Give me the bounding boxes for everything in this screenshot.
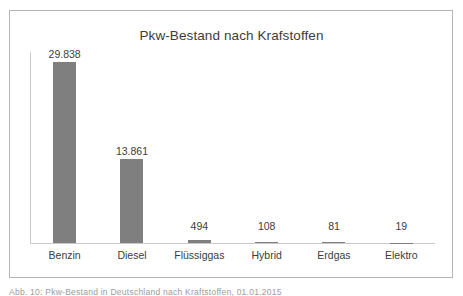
figure-caption-clip: Abb. 10: Pkw-Bestand in Deutschland nach… <box>9 287 453 296</box>
bar-erdgas <box>322 242 345 243</box>
bar-item: 29.838 <box>31 52 98 243</box>
bar-hybrid <box>255 242 278 243</box>
bar-value-label: 29.838 <box>31 48 98 60</box>
x-axis-line <box>30 243 435 244</box>
chart-title: Pkw-Bestand nach Krafstoffen <box>0 28 463 43</box>
x-tick-fluessiggas: Flüssiggas <box>166 249 233 261</box>
bar-value-label: 19 <box>368 220 435 232</box>
bar-benzin <box>53 62 76 243</box>
bar-value-label: 13.861 <box>98 145 165 157</box>
x-tick-erdgas: Erdgas <box>300 249 367 261</box>
bar-item: 13.861 <box>98 52 165 243</box>
bar-value-label: 81 <box>300 220 367 232</box>
bar-item: 108 <box>233 52 300 243</box>
chart-screenshot: Pkw-Bestand nach Krafstoffen 29.838 13.8… <box>0 0 463 296</box>
bar-value-label: 494 <box>166 220 233 232</box>
bar-item: 494 <box>166 52 233 243</box>
bar-item: 81 <box>300 52 367 243</box>
bar-value-label: 108 <box>233 220 300 232</box>
x-tick-hybrid: Hybrid <box>233 249 300 261</box>
bar-item: 19 <box>368 52 435 243</box>
bar-fluessiggas <box>188 240 211 243</box>
x-tick-benzin: Benzin <box>31 249 98 261</box>
figure-caption: Abb. 10: Pkw-Bestand in Deutschland nach… <box>9 287 453 296</box>
x-axis-tick-labels: Benzin Diesel Flüssiggas Hybrid Erdgas E… <box>31 249 435 261</box>
x-tick-diesel: Diesel <box>98 249 165 261</box>
bar-series: 29.838 13.861 494 108 81 19 <box>31 52 435 243</box>
x-tick-elektro: Elektro <box>368 249 435 261</box>
bar-diesel <box>120 159 143 243</box>
